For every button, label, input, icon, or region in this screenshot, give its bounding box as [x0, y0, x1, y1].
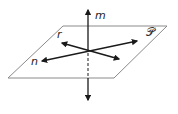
- label-plane: 𝒫: [146, 25, 156, 39]
- label-m: m: [95, 9, 106, 22]
- diagram-canvas: m r n 𝒫: [0, 0, 178, 114]
- label-r: r: [57, 28, 63, 41]
- line-n: [42, 41, 137, 61]
- label-n: n: [31, 55, 38, 68]
